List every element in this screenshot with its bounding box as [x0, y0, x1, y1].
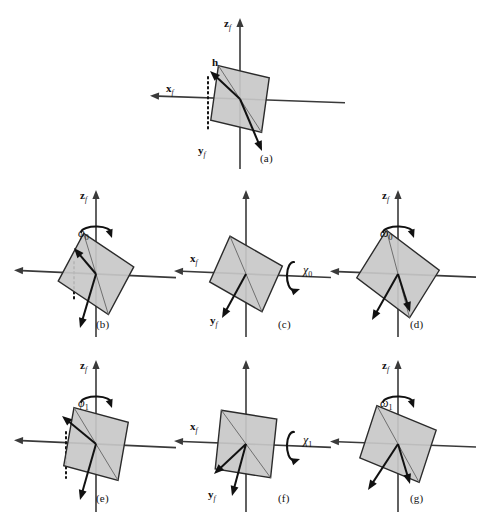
z-axis-arrowhead [394, 190, 401, 199]
panel-c: xfyfχ0(c) [168, 182, 333, 342]
panel-g-drawing: zfω1 [326, 352, 478, 520]
x-axis-arrowhead [150, 93, 159, 100]
y-vector-arrowhead [79, 317, 87, 328]
z-axis-label: zf [80, 359, 88, 374]
x-axis-label: xf [166, 82, 175, 97]
rotation-symbol-label: χ1 [302, 433, 312, 449]
rotation-arc-z-arrowhead [106, 229, 113, 238]
panel-d-caption: (d) [410, 318, 423, 330]
z-axis-arrowhead [242, 360, 249, 369]
z-axis-label: zf [382, 359, 390, 374]
panel-c-caption: (c) [278, 318, 291, 330]
rotation-arc-z-arrowhead [408, 399, 415, 408]
z-axis-label: zf [382, 189, 390, 204]
rotation-arc-x [287, 432, 300, 465]
rotation-arc-z-arrowhead [408, 229, 415, 238]
x-axis-arrowhead [330, 268, 339, 275]
panel-e-drawing: zfφ1 [8, 352, 178, 520]
z-axis-arrowhead [236, 18, 243, 27]
y-axis-label: yf [198, 144, 207, 159]
x-axis-arrowhead [14, 437, 23, 444]
panel-f-drawing: xfyfχ1 [168, 352, 333, 520]
a-vector-arrowhead [372, 309, 380, 320]
x-axis-arrowhead [14, 267, 23, 274]
panel-f: xfyfχ1(f) [168, 352, 333, 520]
panel-c-drawing: xfyfχ0 [168, 182, 333, 342]
x-axis-arrowhead [174, 268, 183, 275]
rotation-arc-z-arrowhead [106, 399, 113, 408]
panel-e-caption: (e) [96, 492, 109, 504]
y-axis-label: yf [208, 488, 217, 503]
z-axis-label: zf [80, 189, 88, 204]
rotation-symbol-label: ω1 [380, 396, 392, 412]
panel-e: zfφ1(e) [8, 352, 178, 520]
x-axis-arrowhead [174, 438, 183, 445]
panel-d-drawing: zfω0 [326, 182, 478, 342]
z-axis-label: zf [224, 17, 232, 32]
y-vector-arrowhead [254, 140, 262, 151]
z-axis-arrowhead [92, 360, 99, 369]
rotation-arc-x-arrowhead [291, 458, 300, 465]
panel-b-caption: (b) [96, 318, 109, 330]
a-vector-arrowhead [368, 479, 377, 490]
figure-canvas: zfxfyfh(a)zfφ0(b)xfyfχ0(c)zfω0(d)zfφ1(e)… [0, 0, 480, 526]
z-axis-arrowhead [92, 190, 99, 199]
rotation-arc-x-arrowhead [291, 288, 300, 295]
z-axis-arrowhead [394, 360, 401, 369]
rotation-symbol-label: χ0 [302, 263, 312, 279]
y-axis-label: yf [210, 314, 219, 329]
panel-d: zfω0(d) [326, 182, 478, 342]
rotation-arc-x [287, 262, 300, 295]
y-vector-arrowhead [222, 307, 230, 318]
y-vector-arrowhead [231, 485, 239, 496]
z-axis-arrowhead [242, 190, 249, 199]
panel-g-caption: (g) [410, 492, 423, 504]
x-axis-label: xf [190, 420, 199, 435]
x-axis-arrowhead [330, 438, 339, 445]
panel-b-drawing: zfφ0 [8, 182, 178, 342]
panel-b: zfφ0(b) [8, 182, 178, 342]
panel-a: zfxfyfh(a) [140, 4, 350, 174]
x-axis-label: xf [190, 252, 199, 267]
h-vector-label: h [212, 56, 218, 68]
panel-f-caption: (f) [278, 492, 290, 504]
panel-a-drawing: zfxfyfh [140, 4, 350, 174]
rotation-symbol-label: ω0 [380, 226, 392, 242]
panel-g: zfω1(g) [326, 352, 478, 520]
panel-a-caption: (a) [260, 152, 273, 164]
y-vector-arrowhead [79, 489, 87, 500]
